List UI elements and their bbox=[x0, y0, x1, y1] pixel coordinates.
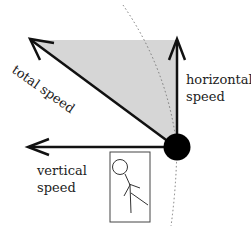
vertical-speed-arrow bbox=[28, 139, 177, 155]
person-in-box-icon bbox=[110, 152, 150, 222]
vertical-speed-label-line2: speed bbox=[37, 180, 76, 196]
diagram-canvas bbox=[0, 0, 251, 238]
horizontal-speed-label-line2: speed bbox=[186, 89, 225, 105]
speed-vector-diagram: total speed horizontal speed vertical sp… bbox=[0, 0, 251, 238]
ball-icon bbox=[164, 134, 191, 161]
vertical-speed-label-line1: vertical bbox=[37, 163, 87, 179]
horizontal-speed-label-line1: horizontal bbox=[186, 72, 251, 88]
